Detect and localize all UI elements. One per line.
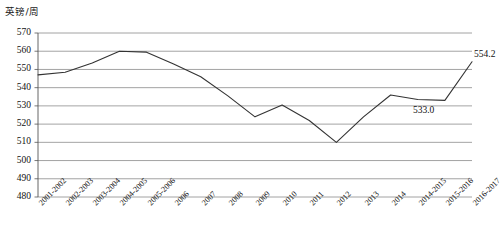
point-value-label: 554.2	[474, 49, 495, 59]
y-tick-label: 530	[0, 100, 31, 110]
data-series-group	[38, 51, 472, 142]
y-tick-label: 480	[0, 191, 31, 201]
series-line	[38, 51, 472, 142]
line-chart-svg	[0, 0, 502, 242]
y-tick-label: 550	[0, 63, 31, 73]
y-tick-label: 570	[0, 27, 31, 37]
y-tick-label: 510	[0, 136, 31, 146]
y-tick-label: 490	[0, 173, 31, 183]
y-tick-marks-group	[35, 33, 39, 197]
y-tick-label: 560	[0, 45, 31, 55]
y-tick-label: 520	[0, 118, 31, 128]
y-tick-label: 540	[0, 82, 31, 92]
chart-page: 英镑/周 570560550540530520510500490480 2001…	[0, 0, 502, 242]
gridlines-group	[38, 33, 472, 197]
chart-plot-area: 570560550540530520510500490480 2001-2002…	[0, 0, 502, 242]
y-tick-label: 500	[0, 155, 31, 165]
point-value-label: 533.0	[413, 105, 434, 115]
